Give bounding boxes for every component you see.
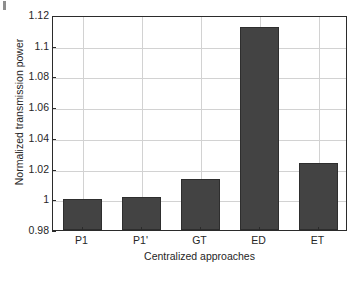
bar (63, 199, 102, 230)
y-axis-tick-label: 1.08 (29, 71, 49, 82)
y-axis-tick-label: 0.98 (29, 225, 49, 236)
x-axis-tick-label: ED (251, 234, 266, 246)
x-axis-tick-mark (200, 227, 201, 231)
gridline-vertical (83, 17, 84, 230)
x-axis-tick-label: P1 (75, 234, 88, 246)
x-axis-tick-label: GT (192, 234, 207, 246)
y-axis-title: Normalized transmission power (13, 22, 25, 202)
x-axis-tick-mark (141, 227, 142, 231)
plot-area (52, 16, 347, 231)
y-axis-tick-mark (52, 47, 56, 48)
bar (181, 179, 220, 230)
bar (240, 27, 279, 230)
y-axis-tick-label: 1.12 (29, 10, 49, 21)
x-axis-tick-mark (318, 227, 319, 231)
chart-figure: 0.9811.021.041.061.081.11.12 Normalized … (0, 0, 358, 284)
gridline-horizontal (53, 109, 346, 110)
y-axis-tick-mark (52, 139, 56, 140)
y-axis-tick-label: 1 (43, 194, 49, 205)
gridline-horizontal (53, 48, 346, 49)
y-axis-tick-label: 1.04 (29, 133, 49, 144)
y-axis-tick-label: 1.02 (29, 164, 49, 175)
x-axis-tick-mark (82, 227, 83, 231)
gridline-horizontal (53, 78, 346, 79)
y-axis-tick-mark (52, 77, 56, 78)
x-axis-tick-mark (259, 227, 260, 231)
x-axis-title: Centralized approaches (52, 250, 347, 262)
y-axis-tick-mark (52, 200, 56, 201)
y-axis-tick-mark (52, 108, 56, 109)
gridline-horizontal (53, 140, 346, 141)
x-axis-tick-label: P1' (133, 234, 148, 246)
bar (299, 163, 338, 230)
y-axis-tick-mark (52, 16, 56, 17)
x-axis-tick-label: ET (311, 234, 324, 246)
y-axis-tick-mark (52, 231, 56, 232)
y-axis-tick-label: 1.06 (29, 102, 49, 113)
bar (122, 197, 161, 230)
y-axis-tick-label: 1.1 (34, 41, 49, 52)
y-axis-tick-mark (52, 170, 56, 171)
